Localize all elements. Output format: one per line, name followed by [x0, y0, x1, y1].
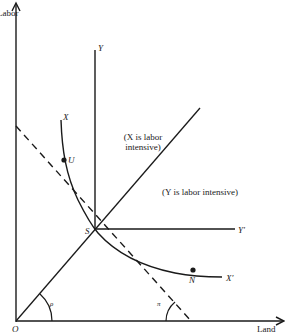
- price-line-dashed: [16, 126, 191, 321]
- point-s-label: S: [85, 226, 90, 236]
- origin-label: O: [12, 324, 19, 334]
- angle-pi-label: π: [157, 299, 161, 309]
- angle-rho-label: ρ: [50, 299, 53, 309]
- axes: [12, 3, 284, 325]
- region-x-line2: intensive): [108, 142, 178, 152]
- point-n-label: N: [189, 275, 195, 285]
- isoquant-x-end-label: X′: [226, 273, 233, 283]
- angle-pi-arc: [166, 302, 175, 321]
- region-x-line1: (X is labor: [108, 132, 178, 142]
- isoquant-x-start-label: X: [63, 112, 69, 122]
- point-u-marker: [61, 157, 66, 162]
- diagram-graphics: [0, 0, 285, 336]
- point-n-marker: [190, 267, 195, 272]
- x-axis-label: Land: [257, 324, 276, 334]
- isoquant-y-end-label: Y′: [238, 225, 245, 235]
- factor-intensity-diagram: Labor Land O Y Y′ X X′ U S N ρ π (X is l…: [0, 0, 285, 336]
- isoquant-y-start-label: Y: [98, 43, 103, 53]
- point-u-label: U: [68, 155, 75, 165]
- region-y-labor-intensive: (Y is labor intensive): [162, 187, 238, 197]
- y-axis-label: Labor: [0, 8, 19, 18]
- region-x-labor-intensive: (X is labor intensive): [108, 132, 178, 152]
